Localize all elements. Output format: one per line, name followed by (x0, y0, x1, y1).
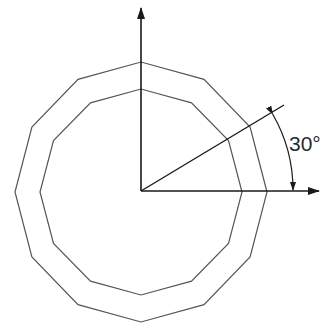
diagram-canvas: 30° (0, 0, 332, 330)
diagram-svg: 30° (0, 0, 332, 330)
angle-label: 30° (289, 132, 321, 155)
angle-line-30deg (141, 105, 284, 191)
